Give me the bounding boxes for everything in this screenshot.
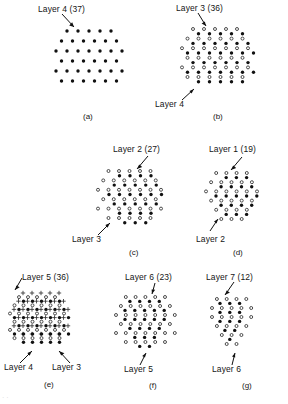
panel-e	[8, 288, 92, 358]
panel-f-caption: (f)	[149, 381, 157, 390]
layer-4-points	[54, 29, 123, 82]
panel-f	[112, 292, 194, 356]
panel-d-label-layer1: Layer 1 (19)	[209, 144, 256, 154]
layer-2-points	[205, 172, 259, 221]
layer-4-points	[181, 28, 250, 79]
panel-d-leader-top	[228, 156, 248, 172]
panel-d-label-layer2: Layer 2	[196, 234, 225, 244]
panel-a-label-layer4: Layer 4 (37)	[38, 4, 85, 14]
panel-f-plot	[112, 292, 194, 356]
panel-g-label-layer6: Layer 6	[212, 364, 241, 374]
panel-d-leader-bottom	[206, 218, 224, 234]
panel-g-leader-top	[222, 281, 240, 297]
panel-c-label-layer3: Layer 3	[72, 234, 101, 244]
panel-g-label-layer7: Layer 7 (12)	[206, 272, 253, 282]
panel-b-caption: (b)	[213, 112, 223, 121]
panel-f-leader-top	[148, 282, 164, 296]
panel-a	[52, 26, 128, 90]
panel-b-label-layer3: Layer 3 (36)	[176, 3, 223, 13]
panel-g-plot	[208, 294, 280, 358]
panel-b-label-layer4: Layer 4	[155, 99, 184, 109]
panel-d-caption: (d)	[233, 248, 243, 257]
figure-canvas: Layer 4 (37) (a) Layer 3 (36) Layer 4 (b…	[0, 0, 288, 404]
panel-b	[178, 24, 264, 96]
panel-b-plot	[178, 24, 264, 96]
panel-c-caption: (c)	[129, 248, 138, 257]
panel-e-label-layer3: Layer 3	[52, 362, 81, 372]
panel-c-leader-top	[134, 155, 154, 171]
panel-g	[208, 294, 280, 358]
panel-f-label-layer6: Layer 6 (23)	[125, 272, 172, 282]
panel-c-label-layer2: Layer 2 (27)	[113, 144, 160, 154]
panel-a-caption: (a)	[83, 112, 93, 121]
panel-e-label-layer4: Layer 4	[4, 362, 33, 372]
layer-5-points	[13, 300, 70, 344]
layer-6-points	[211, 298, 253, 346]
panel-e-plot	[8, 288, 92, 358]
panel-e-caption: (e)	[44, 380, 54, 389]
page-artifact: · ·	[2, 394, 9, 401]
panel-b-leader-top	[194, 12, 214, 28]
panel-a-plot	[52, 26, 128, 90]
panel-e-label-layer5: Layer 5 (36)	[22, 272, 69, 282]
panel-a-leader	[60, 13, 82, 29]
layer-1-points	[214, 176, 258, 216]
panel-g-caption: (g)	[242, 381, 252, 390]
panel-f-label-layer5: Layer 5	[124, 364, 153, 374]
